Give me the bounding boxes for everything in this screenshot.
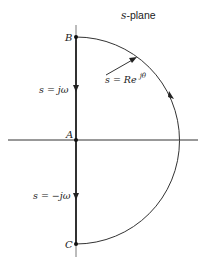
label-upper-axis: s = jω [39,84,69,95]
point-C [74,242,78,246]
plane-title: s-plane [121,9,156,21]
point-B [74,35,78,39]
point-A [74,138,78,142]
s-plane-contour-diagram: s-plane B A C s = jω s = −jω s = Re jθ [0,0,207,269]
label-A: A [65,129,73,140]
arc-arrow-icon [168,91,174,99]
label-arc-exponent: jθ [138,72,147,80]
label-lower-axis: s = −jω [33,190,71,201]
label-B: B [64,32,72,43]
down-arrow-upper-icon [73,85,79,92]
down-arrow-lower-icon [73,193,79,200]
label-arc: s = Re jθ [105,72,147,85]
radius-arrowhead-icon [129,57,137,63]
label-arc-base: s = Re [105,74,137,85]
plane-title-rest: -plane [126,9,155,21]
radius-arrow-line [106,59,134,75]
label-C: C [65,239,73,250]
